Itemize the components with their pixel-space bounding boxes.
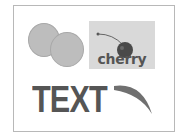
circle-shape-right (50, 32, 84, 67)
cherry-card: cherry (89, 21, 155, 69)
crescent-shape-icon (112, 82, 154, 116)
cherry-label: cherry (89, 51, 155, 67)
headline-text: TEXT (32, 80, 107, 120)
